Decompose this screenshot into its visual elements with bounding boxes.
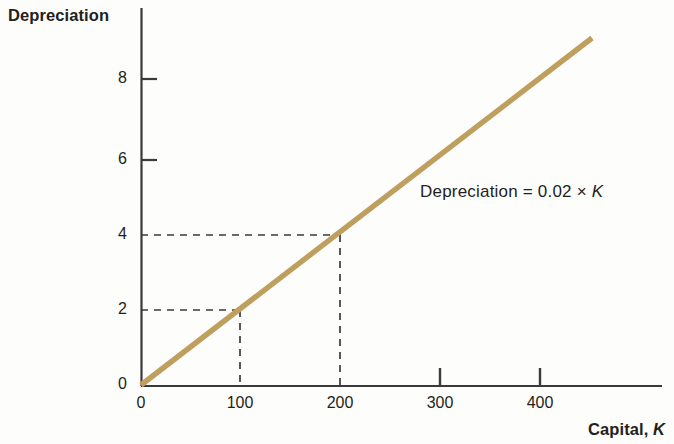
equation-annotation: Depreciation = 0.02 × K <box>420 182 603 202</box>
x-tick-label-0: 0 <box>119 394 163 412</box>
y-tick-label-4: 4 <box>101 225 127 243</box>
x-tick-label-100: 100 <box>218 394 262 412</box>
equation-annotation-variable: K <box>592 182 604 201</box>
y-tick-label-6: 6 <box>101 150 127 168</box>
x-axis-title-variable: K <box>653 420 665 438</box>
multiplication-sign-icon: × <box>577 182 592 201</box>
x-axis-title: Capital, K <box>588 420 665 439</box>
y-tick-label-0: 0 <box>101 375 127 393</box>
x-tick-label-200: 200 <box>318 394 362 412</box>
x-axis-title-text: Capital, <box>588 420 653 438</box>
y-axis-title: Depreciation <box>8 6 109 25</box>
x-tick-label-400: 400 <box>518 394 562 412</box>
y-tick-label-8: 8 <box>101 69 127 87</box>
equation-annotation-prefix: Depreciation = 0.02 <box>420 182 577 201</box>
depreciation-line-series <box>141 38 592 385</box>
depreciation-chart-figure: Depreciation Capital, K 0 2 4 6 8 0 100 … <box>0 0 674 444</box>
x-tick-label-300: 300 <box>418 394 462 412</box>
y-tick-label-2: 2 <box>101 300 127 318</box>
